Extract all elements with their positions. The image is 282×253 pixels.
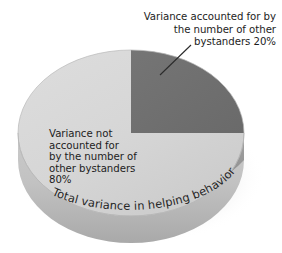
pie-slice-variance-accounted-for[interactable]: [131, 50, 244, 133]
slice-label-variance-not-accounted-for: Variance not accounted for by the number…: [49, 128, 153, 186]
slice-label-variance-accounted-for: Variance accounted for by the number of …: [108, 11, 276, 49]
pie-chart-figure: Total variance in helping behavior Varia…: [0, 0, 282, 253]
